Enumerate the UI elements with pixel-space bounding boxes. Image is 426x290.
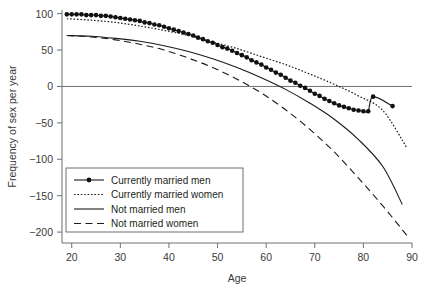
series-marker bbox=[366, 109, 371, 114]
series-marker bbox=[327, 99, 332, 104]
x-tick-label: 40 bbox=[163, 251, 175, 263]
series-marker bbox=[181, 30, 186, 35]
y-tick-label: −50 bbox=[35, 117, 53, 129]
series-marker bbox=[79, 12, 84, 17]
chart-legend: Currently married menCurrently married w… bbox=[66, 168, 243, 232]
chart-canvas: 100500−50−100−150−200 2030405060708090 F… bbox=[0, 0, 426, 290]
series-marker bbox=[308, 89, 313, 94]
series-marker bbox=[215, 43, 220, 48]
series-marker bbox=[390, 104, 395, 109]
legend-item-label: Not married men bbox=[111, 204, 185, 215]
x-tick-label: 70 bbox=[309, 251, 321, 263]
series-marker bbox=[191, 33, 196, 38]
series-marker bbox=[89, 13, 94, 18]
series-marker bbox=[283, 75, 288, 80]
series-marker bbox=[293, 81, 298, 86]
series-marker bbox=[317, 94, 322, 99]
series-marker bbox=[332, 101, 337, 106]
series-marker bbox=[118, 16, 123, 21]
series-marker bbox=[220, 45, 225, 50]
series-marker bbox=[157, 23, 162, 28]
series-marker bbox=[264, 65, 269, 70]
series-marker bbox=[371, 94, 376, 99]
y-tick-label: 0 bbox=[47, 80, 53, 92]
chart-figure: 100500−50−100−150−200 2030405060708090 F… bbox=[0, 0, 426, 290]
x-axis-ticks: 2030405060708090 bbox=[66, 243, 418, 263]
series-marker bbox=[274, 70, 279, 75]
y-tick-label: −150 bbox=[29, 190, 53, 202]
series-marker bbox=[186, 32, 191, 37]
series-marker bbox=[206, 39, 211, 44]
series-marker bbox=[351, 107, 356, 112]
series-marker bbox=[356, 108, 361, 113]
y-axis-title: Frequency of sex per year bbox=[6, 65, 18, 187]
series-marker bbox=[123, 16, 128, 21]
series-marker bbox=[137, 19, 142, 24]
series-marker bbox=[167, 26, 172, 31]
series-marker bbox=[303, 86, 308, 91]
series-marker bbox=[94, 13, 99, 18]
legend-item-label: Not married women bbox=[111, 218, 198, 229]
series-marker bbox=[298, 83, 303, 88]
series-marker bbox=[259, 62, 264, 67]
series-marker bbox=[235, 51, 240, 56]
series-marker bbox=[142, 20, 147, 25]
series-marker bbox=[288, 78, 293, 83]
x-tick-label: 50 bbox=[212, 251, 224, 263]
legend-marker-sample bbox=[87, 178, 92, 183]
y-tick-label: 100 bbox=[35, 8, 53, 20]
y-tick-label: 50 bbox=[41, 44, 53, 56]
series-marker bbox=[99, 14, 104, 19]
x-tick-label: 30 bbox=[114, 251, 126, 263]
series-marker bbox=[133, 18, 138, 23]
series-marker bbox=[196, 35, 201, 40]
series-marker bbox=[361, 109, 366, 114]
series-marker bbox=[347, 106, 352, 111]
legend-item-label: Currently married men bbox=[111, 175, 210, 186]
series-marker bbox=[201, 37, 206, 42]
series-marker bbox=[244, 55, 249, 60]
series-marker bbox=[240, 53, 245, 58]
series-marker bbox=[74, 12, 79, 17]
series-marker bbox=[322, 97, 327, 102]
series-marker bbox=[128, 17, 133, 22]
series-marker bbox=[69, 12, 74, 17]
y-tick-label: −200 bbox=[29, 226, 53, 238]
series-marker bbox=[84, 13, 89, 18]
x-tick-label: 20 bbox=[66, 251, 78, 263]
series-marker bbox=[65, 12, 70, 17]
series-marker bbox=[172, 27, 177, 32]
series-marker bbox=[210, 40, 215, 45]
series-marker bbox=[113, 15, 118, 20]
series-marker bbox=[249, 58, 254, 63]
series-line bbox=[67, 14, 393, 112]
series-marker bbox=[162, 24, 167, 29]
series-marker bbox=[342, 105, 347, 110]
y-axis-ticks: 100500−50−100−150−200 bbox=[29, 8, 62, 238]
series-marker bbox=[230, 48, 235, 53]
series-marker bbox=[176, 29, 181, 34]
series-marker bbox=[225, 46, 230, 51]
x-tick-label: 80 bbox=[358, 251, 370, 263]
series-marker bbox=[108, 14, 113, 19]
x-axis-title: Age bbox=[228, 272, 247, 284]
series-marker bbox=[269, 67, 274, 72]
series-marker bbox=[147, 21, 152, 26]
y-tick-label: −100 bbox=[29, 153, 53, 165]
data-markers-group bbox=[65, 12, 395, 113]
series-marker bbox=[312, 91, 317, 96]
series-marker bbox=[278, 73, 283, 78]
series-marker bbox=[254, 60, 259, 65]
legend-item-label: Currently married women bbox=[111, 189, 223, 200]
series-marker bbox=[103, 14, 108, 19]
x-tick-label: 60 bbox=[260, 251, 272, 263]
series-marker bbox=[337, 103, 342, 108]
series-marker bbox=[152, 22, 157, 27]
x-tick-label: 90 bbox=[406, 251, 418, 263]
